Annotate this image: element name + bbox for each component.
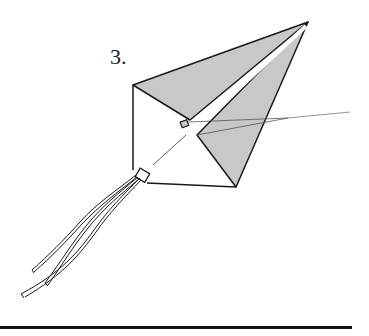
kite-bottom-edge <box>147 183 236 187</box>
bridle-knot <box>180 120 189 128</box>
flying-line <box>288 112 350 118</box>
divider-rule <box>0 326 352 329</box>
kite-illustration <box>0 0 369 336</box>
tail-streamers <box>21 175 141 298</box>
kite-spine <box>153 135 186 165</box>
